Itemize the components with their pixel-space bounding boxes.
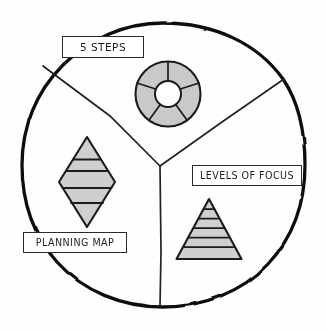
label-levels-of-focus[interactable]: LEVELS OF FOCUS	[192, 165, 302, 186]
diamond-icon-group	[59, 137, 115, 227]
label-planning-map-text: PLANNING MAP	[36, 237, 115, 249]
label-levels-of-focus-text: LEVELS OF FOCUS	[200, 170, 294, 182]
diagram-canvas: 5 STEPS LEVELS OF FOCUS PLANNING MAP	[0, 0, 326, 331]
divider-bottom	[160, 166, 161, 306]
label-planning-map[interactable]: PLANNING MAP	[23, 232, 127, 253]
label-five-steps-text: 5 STEPS	[80, 41, 126, 54]
donut-inner-hole	[155, 81, 181, 107]
label-five-steps[interactable]: 5 STEPS	[62, 36, 144, 58]
donut-chart-icon-group	[136, 62, 201, 127]
pyramid-icon-group	[177, 199, 242, 259]
pyramid-shape	[177, 199, 242, 259]
diamond-shape	[59, 137, 115, 227]
